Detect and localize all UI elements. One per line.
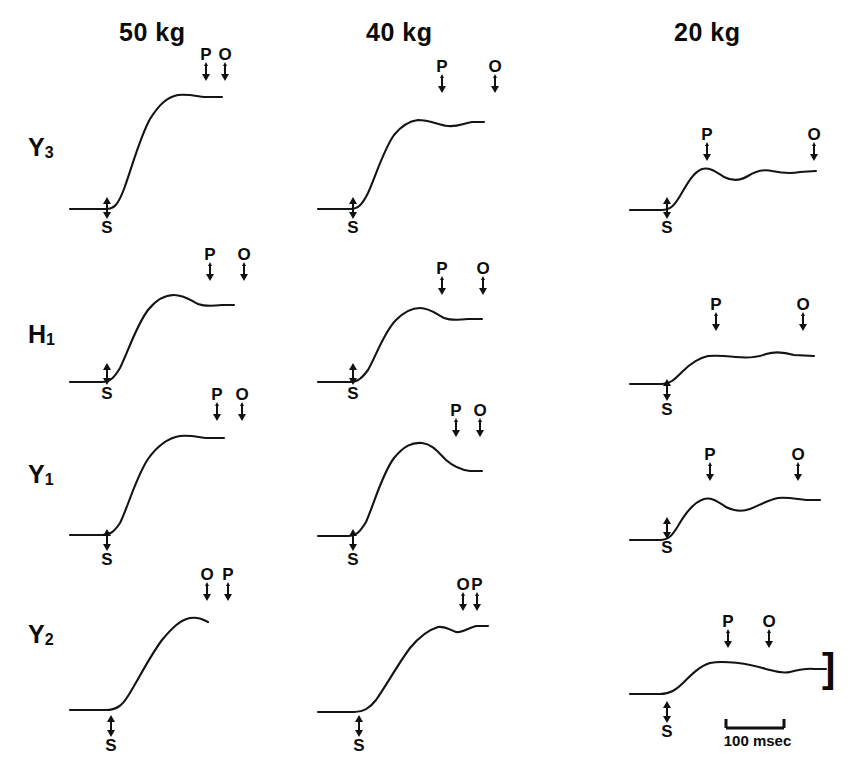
marker-p-h1-50kg: P [197, 248, 223, 282]
row-label-y1-sub: 1 [45, 471, 54, 488]
s-arrow-icon [352, 714, 366, 738]
marker-p-label: P [197, 248, 223, 261]
down-arrow-icon [211, 402, 223, 422]
marker-s-y3-20kg: S [655, 196, 679, 236]
marker-p-label: P [429, 60, 455, 73]
trace-line [70, 618, 208, 710]
marker-p-y2-50kg: P [215, 568, 241, 602]
down-arrow-icon [200, 62, 212, 82]
down-arrow-icon [236, 402, 248, 422]
marker-s-label: S [99, 738, 123, 754]
marker-o-label: O [790, 298, 816, 311]
marker-p-label: P [429, 262, 455, 275]
marker-o-y1-40kg: O [467, 404, 493, 438]
down-arrow-icon [797, 312, 809, 332]
column-header-20kg: 20 kg [674, 18, 740, 47]
marker-s-label: S [655, 402, 679, 418]
down-arrow-icon [792, 462, 804, 482]
marker-s-label: S [95, 386, 119, 402]
marker-p-label: P [715, 615, 741, 628]
column-header-40kg: 40 kg [366, 18, 432, 47]
down-arrow-icon [201, 582, 213, 602]
marker-p-label: P [694, 128, 720, 141]
marker-p-y3-40kg: P [429, 60, 455, 94]
s-arrow-icon [660, 378, 674, 402]
marker-p-y1-20kg: P [697, 448, 723, 482]
trace-line [318, 626, 488, 712]
trace-svg [318, 428, 518, 544]
marker-p-y1-50kg: P [204, 388, 230, 422]
marker-o-label: O [212, 48, 238, 61]
down-arrow-icon [808, 142, 820, 162]
marker-o-label: O [467, 404, 493, 417]
marker-p-label: P [215, 568, 241, 581]
marker-o-label: O [785, 448, 811, 461]
marker-o-label: O [470, 262, 496, 275]
trace-panel-y1-40kg [318, 428, 518, 544]
row-label-y1-base: Y [28, 460, 45, 488]
marker-s-y3-40kg: S [341, 196, 365, 236]
marker-o-label: O [482, 60, 508, 73]
trace-line [70, 436, 224, 535]
marker-s-y1-20kg: S [655, 516, 679, 556]
marker-o-h1-40kg: O [470, 262, 496, 296]
marker-o-h1-50kg: O [231, 248, 257, 282]
time-calibration-label: 100 msec [700, 732, 815, 749]
marker-p-label: P [697, 448, 723, 461]
down-arrow-icon [477, 276, 489, 296]
marker-s-label: S [655, 540, 679, 556]
marker-s-label: S [347, 738, 371, 754]
row-label-y2: Y2 [28, 620, 54, 649]
marker-o-label: O [801, 128, 827, 141]
down-arrow-icon [763, 629, 775, 649]
marker-p-h1-40kg: P [429, 262, 455, 296]
s-arrow-icon [104, 714, 118, 738]
amplitude-calibration-bracket: ] [822, 648, 835, 688]
marker-s-y1-40kg: S [341, 528, 365, 568]
row-label-y2-base: Y [28, 620, 45, 648]
trace-panel-y2-40kg [318, 608, 518, 720]
marker-p-y3-20kg: P [694, 128, 720, 162]
row-label-h1-sub: 1 [46, 331, 55, 348]
marker-s-label: S [95, 220, 119, 236]
marker-s-h1-40kg: S [341, 362, 365, 402]
s-arrow-icon [660, 196, 674, 220]
down-arrow-icon [204, 262, 216, 282]
scale-bar-icon [723, 718, 793, 730]
figure-panel: 50 kg 40 kg 20 kg Y3 H1 Y1 Y2 [0, 0, 861, 783]
marker-o-y2-20kg: O [756, 615, 782, 649]
marker-o-y1-50kg: O [229, 388, 255, 422]
down-arrow-icon [489, 74, 501, 94]
marker-o-label: O [229, 388, 255, 401]
trace-svg [318, 608, 518, 720]
marker-p-label: P [464, 578, 490, 591]
down-arrow-icon [238, 262, 250, 282]
marker-s-label: S [341, 386, 365, 402]
marker-s-label: S [341, 220, 365, 236]
marker-s-label: S [655, 724, 679, 740]
down-arrow-icon [436, 74, 448, 94]
s-arrow-icon [346, 528, 360, 552]
row-label-y3: Y3 [28, 133, 54, 162]
marker-o-y3-50kg: O [212, 48, 238, 82]
marker-s-h1-20kg: S [655, 378, 679, 418]
marker-p-label: P [204, 388, 230, 401]
row-label-y1: Y1 [28, 460, 54, 489]
trace-svg [70, 425, 270, 543]
s-arrow-icon [100, 528, 114, 552]
down-arrow-icon [222, 582, 234, 602]
down-arrow-icon [450, 418, 462, 438]
row-label-h1: H1 [28, 320, 55, 349]
marker-o-y3-20kg: O [801, 128, 827, 162]
marker-p-y1-40kg: P [443, 404, 469, 438]
marker-o-label: O [756, 615, 782, 628]
trace-panel-y1-50kg [70, 425, 270, 543]
s-arrow-icon [660, 516, 674, 540]
marker-p-label: P [703, 298, 729, 311]
s-arrow-icon [346, 362, 360, 386]
s-arrow-icon [660, 700, 674, 724]
row-label-y3-sub: 3 [45, 144, 54, 161]
down-arrow-icon [219, 62, 231, 82]
row-label-y3-base: Y [28, 133, 45, 161]
row-label-h1-base: H [28, 320, 46, 348]
